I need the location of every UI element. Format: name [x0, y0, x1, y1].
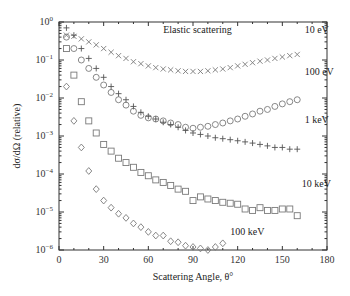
cross-marker — [176, 68, 181, 73]
circle-marker — [78, 57, 84, 63]
circle-marker — [257, 108, 263, 114]
square-marker — [78, 99, 84, 105]
plus-marker — [287, 146, 293, 152]
diamond-marker — [183, 242, 189, 249]
diamond-marker — [101, 197, 107, 204]
y-tick-label: 10−2 — [36, 91, 54, 103]
diamond-marker — [93, 186, 99, 193]
diamond-marker — [220, 240, 226, 247]
square-marker — [257, 205, 263, 211]
plus-marker — [227, 137, 233, 143]
diamond-marker — [212, 244, 218, 251]
diamond-marker — [130, 220, 136, 227]
circle-marker — [279, 101, 285, 107]
cross-marker — [235, 63, 240, 68]
circle-marker — [93, 74, 99, 80]
square-marker — [220, 199, 226, 205]
series-label: 100 eV — [305, 66, 335, 77]
plus-marker — [197, 131, 203, 137]
y-tick-label: 10−4 — [36, 167, 54, 179]
cross-marker — [168, 67, 173, 72]
y-axis-title: dσ/dΩ (relative) — [11, 104, 23, 169]
cross-marker — [138, 61, 143, 66]
cross-marker — [272, 56, 277, 61]
plus-marker — [279, 144, 285, 150]
plus-marker — [86, 55, 92, 61]
square-marker — [63, 46, 69, 52]
series-label: 100 keV — [230, 226, 265, 237]
plus-marker — [116, 91, 122, 97]
circle-marker — [212, 122, 218, 128]
cross-marker — [250, 60, 255, 65]
diamond-marker — [116, 210, 122, 217]
square-marker — [108, 148, 114, 154]
cross-marker — [183, 69, 188, 74]
circle-marker — [108, 89, 114, 95]
circle-marker — [287, 99, 293, 105]
cross-marker — [94, 42, 99, 47]
diamond-marker — [175, 239, 181, 246]
cross-marker — [265, 57, 270, 62]
square-marker — [145, 173, 151, 179]
square-marker — [294, 213, 300, 219]
cross-marker — [116, 53, 121, 58]
plus-marker — [250, 140, 256, 146]
series-label: 1 keV — [305, 114, 330, 125]
cross-marker — [295, 52, 300, 57]
square-marker — [160, 179, 166, 185]
cross-marker — [243, 62, 248, 67]
plus-marker — [145, 113, 151, 119]
plus-marker — [205, 133, 211, 139]
cross-marker — [161, 66, 166, 71]
cross-marker — [280, 54, 285, 59]
cross-marker — [257, 59, 262, 64]
square-marker — [183, 188, 189, 194]
circle-marker — [242, 113, 248, 119]
diamond-marker — [63, 83, 69, 90]
square-marker — [197, 194, 203, 200]
square-marker — [235, 201, 241, 207]
plus-marker — [63, 25, 69, 31]
cross-marker — [287, 53, 292, 58]
circle-marker — [205, 123, 211, 129]
diamond-marker — [78, 144, 84, 151]
series-label: Elastic scattering — [163, 24, 232, 35]
circle-marker — [264, 106, 270, 112]
cross-marker — [205, 68, 210, 73]
circle-marker — [123, 102, 129, 108]
plus-marker — [294, 146, 300, 152]
plus-marker — [123, 97, 129, 103]
plus-marker — [78, 46, 84, 52]
diamond-marker — [153, 232, 159, 239]
axes: 030609012015018010010−110−210−310−410−51… — [36, 15, 335, 265]
square-marker — [116, 155, 122, 161]
square-marker — [123, 160, 129, 166]
y-tick-label: 10−6 — [36, 243, 54, 255]
diamond-marker — [168, 238, 174, 245]
x-tick-label: 90 — [188, 254, 198, 265]
series-label: 10 eV — [305, 24, 330, 35]
plus-marker — [235, 138, 241, 144]
plus-marker — [160, 119, 166, 125]
scattering-chart: 030609012015018010010−110−210−310−410−51… — [0, 0, 350, 296]
cross-marker — [198, 69, 203, 74]
square-marker — [153, 177, 159, 183]
cross-marker — [220, 66, 225, 71]
square-marker — [168, 182, 174, 188]
plus-marker — [101, 74, 107, 80]
y-tick-label: 10−3 — [36, 129, 54, 141]
series-100-kev — [63, 83, 225, 253]
plus-marker — [108, 84, 114, 90]
square-marker — [138, 169, 144, 175]
x-tick-label: 120 — [230, 254, 245, 265]
square-marker — [272, 207, 278, 213]
plus-marker — [272, 144, 278, 150]
series-label: 10 keV — [302, 178, 332, 189]
diamond-marker — [197, 245, 203, 252]
circle-marker — [272, 103, 278, 109]
circle-marker — [227, 118, 233, 124]
square-marker — [279, 206, 285, 212]
diamond-marker — [145, 228, 151, 235]
plus-marker — [175, 124, 181, 130]
diamond-marker — [138, 224, 144, 231]
